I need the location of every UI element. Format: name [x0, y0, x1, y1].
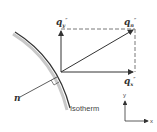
normal-line	[20, 77, 57, 97]
qx-label: qx″	[124, 76, 136, 87]
qn-vector	[61, 30, 133, 72]
qy-label: qy″	[56, 17, 68, 29]
axis-x-label: x	[150, 118, 153, 124]
axis-y-label: y	[123, 92, 126, 98]
isotherm-shadow	[13, 34, 67, 110]
normal-label: n	[14, 93, 21, 103]
isotherm-label: Isotherm	[70, 104, 99, 113]
heat-flux-diagram: qy″ qn″ qx″ n Isotherm y x	[0, 0, 157, 132]
qn-label: qn″	[124, 17, 137, 28]
